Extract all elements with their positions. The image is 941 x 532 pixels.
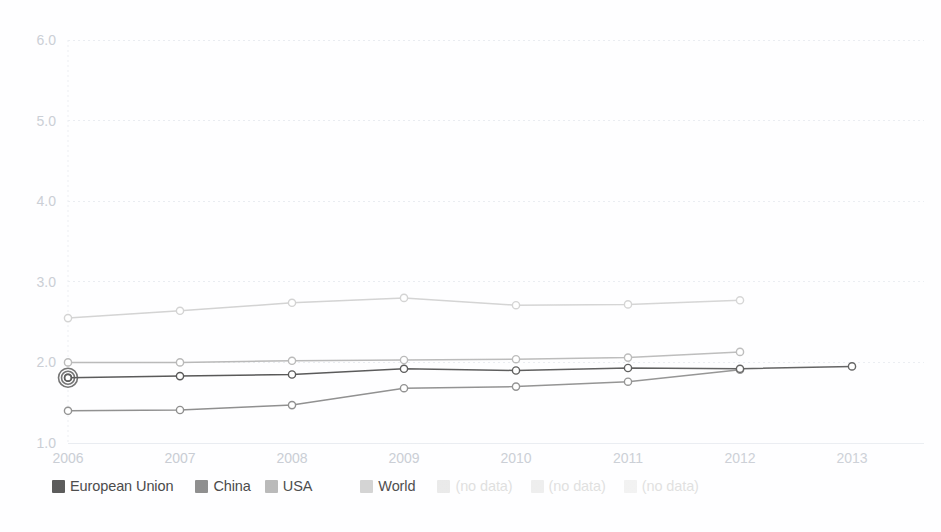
data-point-marker[interactable] [624, 364, 631, 371]
x-tick-label: 2008 [276, 450, 307, 466]
legend-item[interactable]: (no data) [624, 476, 699, 496]
legend-label: World [378, 478, 415, 494]
legend-swatch-icon [360, 480, 373, 493]
legend-swatch-icon [624, 480, 637, 493]
data-point-marker[interactable] [176, 307, 183, 314]
data-point-marker[interactable] [512, 383, 519, 390]
series-line [68, 366, 852, 377]
data-point-marker[interactable] [736, 348, 743, 355]
legend-item[interactable]: (no data) [437, 476, 512, 496]
data-point-marker[interactable] [848, 363, 855, 370]
data-point-marker[interactable] [624, 378, 631, 385]
y-tick-label: 5.0 [37, 113, 57, 129]
series-usa [64, 348, 743, 366]
data-point-marker[interactable] [400, 356, 407, 363]
legend-item[interactable]: (no data) [531, 476, 606, 496]
y-tick-label: 1.0 [37, 435, 57, 451]
x-tick-label: 2009 [388, 450, 419, 466]
data-point-marker[interactable] [736, 297, 743, 304]
legend-label: China [213, 478, 250, 494]
legend-label: (no data) [455, 478, 512, 494]
data-point-marker[interactable] [288, 371, 295, 378]
x-tick-label: 2010 [500, 450, 531, 466]
data-point-marker[interactable] [400, 385, 407, 392]
data-point-marker[interactable] [624, 301, 631, 308]
data-point-marker[interactable] [400, 294, 407, 301]
chart-legend: European UnionChinaUSAWorld(no data)(no … [52, 474, 699, 498]
legend-item[interactable]: World [360, 476, 415, 496]
data-point-marker[interactable] [400, 365, 407, 372]
data-point-marker[interactable] [288, 402, 295, 409]
legend-item[interactable]: USA [265, 476, 313, 496]
series-world [64, 294, 743, 321]
data-point-marker[interactable] [736, 365, 743, 372]
data-point-marker[interactable] [64, 359, 71, 366]
legend-swatch-icon [52, 480, 65, 493]
x-tick-label: 2006 [52, 450, 83, 466]
legend-label: European Union [70, 478, 173, 494]
chart-canvas: 1.02.03.04.05.06.0 200620072008200920102… [0, 0, 941, 532]
legend-label: (no data) [549, 478, 606, 494]
legend-swatch-icon [531, 480, 544, 493]
y-tick-label: 6.0 [37, 32, 57, 48]
x-tick-label: 2012 [724, 450, 755, 466]
data-point-marker[interactable] [64, 315, 71, 322]
data-point-marker[interactable] [176, 406, 183, 413]
legend-swatch-icon [437, 480, 450, 493]
series-layer [64, 294, 855, 414]
y-tick-label: 3.0 [37, 274, 57, 290]
y-axis-tick-labels: 1.02.03.04.05.06.0 [37, 32, 57, 451]
data-point-marker[interactable] [512, 302, 519, 309]
x-axis-tick-labels: 20062007200820092010201120122013 [52, 450, 867, 466]
y-tick-label: 4.0 [37, 193, 57, 209]
legend-swatch-icon [265, 480, 278, 493]
legend-label: (no data) [642, 478, 699, 494]
data-point-marker[interactable] [64, 407, 71, 414]
x-tick-label: 2007 [164, 450, 195, 466]
legend-item[interactable]: China [195, 476, 250, 496]
series-china [64, 366, 743, 414]
x-tick-label: 2013 [836, 450, 867, 466]
data-point-marker[interactable] [288, 357, 295, 364]
legend-label: USA [283, 478, 313, 494]
x-tick-label: 2011 [613, 450, 643, 466]
data-point-marker[interactable] [512, 367, 519, 374]
legend-swatch-icon [195, 480, 208, 493]
legend-item[interactable]: European Union [52, 476, 173, 496]
line-chart: 1.02.03.04.05.06.0 200620072008200920102… [0, 0, 941, 532]
data-point-marker[interactable] [288, 299, 295, 306]
data-point-marker[interactable] [512, 356, 519, 363]
y-tick-label: 2.0 [37, 354, 57, 370]
data-point-marker[interactable] [176, 359, 183, 366]
gridlines [68, 40, 924, 443]
data-point-marker[interactable] [176, 373, 183, 380]
data-point-marker[interactable] [624, 354, 631, 361]
